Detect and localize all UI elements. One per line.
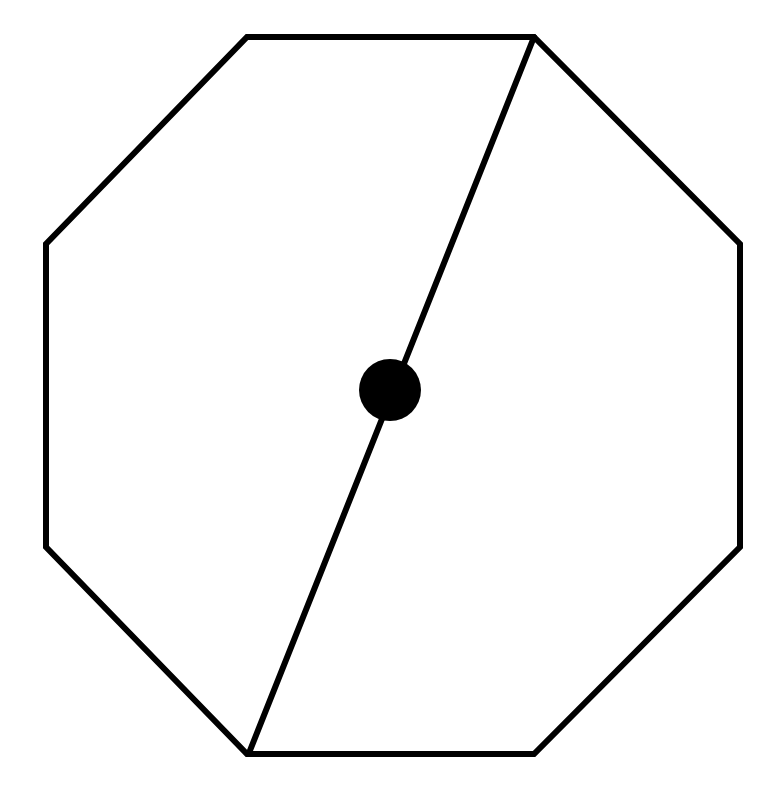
diagram-canvas: Octagon with diagonal through center poi… [0, 0, 783, 791]
octagon-diagram [0, 0, 783, 791]
center-point [359, 359, 421, 421]
